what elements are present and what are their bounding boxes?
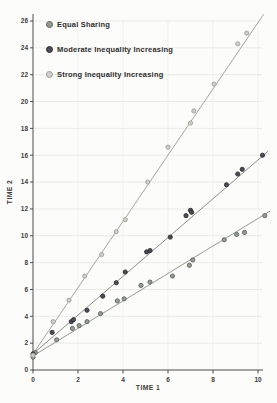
data-point [236, 172, 240, 176]
y-tick-label: 20 [21, 98, 29, 105]
data-point [77, 324, 81, 328]
data-point [222, 238, 226, 242]
legend-item-equal-sharing: Equal Sharing [46, 20, 173, 29]
data-point [191, 258, 195, 262]
data-point [184, 214, 188, 218]
x-tick-label: 4 [121, 376, 125, 383]
data-point [260, 153, 264, 157]
x-tick-label: 6 [166, 376, 170, 383]
data-point [100, 252, 104, 256]
y-tick-label: 12 [21, 205, 29, 212]
x-axis-title: TIME 1 [33, 384, 263, 391]
y-tick-label: 2 [24, 339, 28, 346]
data-point [55, 338, 59, 342]
legend-marker-icon [46, 71, 53, 78]
x-tick-label: 10 [254, 376, 262, 383]
data-point [114, 230, 118, 234]
data-point [263, 214, 267, 218]
data-point [192, 109, 196, 113]
legend-marker-icon [46, 21, 53, 28]
data-point [51, 320, 55, 324]
legend-label: Moderate Inequality Increasing [57, 45, 173, 54]
chart-figure: 024681012141618202224260246810 Equal Sha… [0, 0, 277, 403]
data-point [187, 263, 191, 267]
data-point [101, 294, 105, 298]
data-point [139, 283, 143, 287]
data-point [212, 82, 216, 86]
y-tick-label: 26 [21, 17, 29, 24]
y-tick-label: 18 [21, 125, 29, 132]
y-tick-label: 16 [21, 152, 29, 159]
y-tick-label: 4 [24, 313, 28, 320]
data-point [148, 280, 152, 284]
legend-label: Equal Sharing [57, 20, 110, 29]
data-point [115, 299, 119, 303]
chart-legend: Equal Sharing Moderate Inequality Increa… [46, 20, 173, 79]
y-axis-title: TIME 2 [6, 180, 13, 204]
data-point [123, 270, 127, 274]
data-point [168, 235, 172, 239]
y-tick-label: 0 [24, 366, 28, 373]
x-tick-label: 0 [31, 376, 35, 383]
data-point [166, 145, 170, 149]
data-point [85, 320, 89, 324]
data-point [170, 274, 174, 278]
data-point [50, 330, 54, 334]
data-point [188, 121, 192, 125]
legend-item-strong-inequality-increasing: Strong Inequality Increasing [46, 70, 173, 79]
data-point [85, 308, 89, 312]
data-point [146, 180, 150, 184]
data-point [148, 248, 152, 252]
y-tick-label: 24 [21, 44, 29, 51]
data-point [70, 326, 74, 330]
data-point [122, 297, 126, 301]
legend-marker-icon [46, 46, 53, 53]
data-point [190, 210, 194, 214]
y-tick-label: 14 [21, 178, 29, 185]
data-point [67, 298, 71, 302]
data-point [83, 274, 87, 278]
data-point [114, 281, 118, 285]
x-tick-label: 8 [211, 376, 215, 383]
x-tick-label: 2 [76, 376, 80, 383]
data-point [236, 42, 240, 46]
legend-label: Strong Inequality Increasing [57, 70, 163, 79]
y-tick-label: 6 [24, 286, 28, 293]
data-point [240, 167, 244, 171]
y-tick-label: 22 [21, 71, 29, 78]
y-tick-label: 8 [24, 259, 28, 266]
y-tick-label: 10 [21, 232, 29, 239]
data-point [245, 31, 249, 35]
data-point [235, 232, 239, 236]
data-point [71, 318, 75, 322]
data-point [98, 312, 102, 316]
data-point [123, 218, 127, 222]
data-point [31, 353, 35, 357]
data-point [224, 183, 228, 187]
legend-item-moderate-inequality-increasing: Moderate Inequality Increasing [46, 45, 173, 54]
data-point [242, 230, 246, 234]
